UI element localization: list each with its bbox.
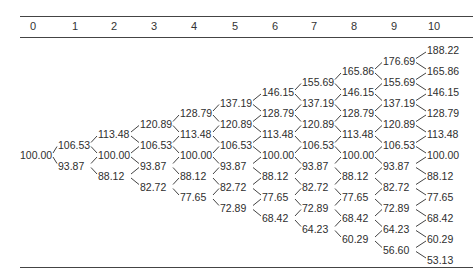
tree-connector [131, 168, 139, 175]
tree-connector [375, 157, 382, 164]
tree-connector [131, 136, 139, 143]
tree-connector [375, 136, 382, 143]
tree-connector [253, 210, 261, 217]
tree-connector [173, 168, 179, 175]
tree-connector [213, 168, 219, 175]
tree-connector [416, 84, 426, 91]
tree-connector [295, 168, 301, 175]
tree-connector [416, 210, 426, 217]
tree-connector [253, 94, 261, 101]
tree-connector [416, 220, 426, 227]
tree-node: 68.42 [427, 212, 453, 224]
tree-node: 64.23 [302, 223, 328, 235]
tree-connector [416, 178, 426, 185]
tree-connector [375, 231, 382, 238]
tree-node: 120.89 [383, 118, 415, 130]
tree-connector [173, 157, 179, 164]
tree-node: 146.15 [262, 86, 294, 98]
tree-connector [375, 126, 382, 133]
tree-connector [335, 105, 341, 112]
tree-node: 146.15 [342, 86, 374, 98]
tree-node: 88.12 [180, 170, 206, 182]
tree-connector [295, 115, 301, 122]
tree-connector [295, 157, 301, 164]
tree-connector [213, 199, 219, 206]
tree-connector [253, 115, 261, 122]
tree-node: 72.89 [302, 202, 328, 214]
tree-node: 137.19 [383, 97, 415, 109]
tree-connector [335, 231, 341, 238]
tree-node: 155.69 [302, 76, 334, 88]
tree-node: 120.89 [220, 118, 252, 130]
tree-connector [295, 126, 301, 133]
tree-node: 128.79 [342, 107, 374, 119]
tree-connector [295, 210, 301, 217]
tree-connector [416, 241, 426, 248]
tree-node: 100.00 [20, 149, 52, 161]
tree-node: 137.19 [220, 97, 252, 109]
tree-connector [416, 94, 426, 101]
tree-connector [91, 168, 97, 175]
tree-node: 77.65 [180, 191, 206, 203]
tree-connector [253, 199, 261, 206]
tree-connector [253, 136, 261, 143]
tree-connector [173, 126, 179, 133]
tree-node: 100.00 [342, 149, 374, 161]
tree-node: 128.79 [262, 107, 294, 119]
tree-connector [173, 189, 179, 196]
tree-connector [335, 220, 341, 227]
tree-connector [416, 168, 426, 175]
tree-connector [91, 136, 97, 143]
tree-node: 100.00 [427, 149, 459, 161]
tree-node: 93.87 [58, 160, 84, 172]
tree-connector [375, 220, 382, 227]
tree-node: 100.00 [180, 149, 212, 161]
tree-node: 155.69 [383, 76, 415, 88]
tree-node: 93.87 [140, 160, 166, 172]
tree-connector [416, 73, 426, 80]
tree-connector [295, 199, 301, 206]
tree-connector [213, 178, 219, 185]
tree-connector [416, 63, 426, 70]
tree-connector [335, 199, 341, 206]
tree-connector [416, 136, 426, 143]
tree-connector [173, 147, 179, 154]
tree-connector [335, 126, 341, 133]
tree-connector [335, 157, 341, 164]
tree-node: 176.69 [383, 55, 415, 67]
tree-connector [335, 84, 341, 91]
tree-node: 120.89 [140, 118, 172, 130]
tree-node: 56.60 [383, 244, 409, 256]
tree-node: 60.29 [427, 233, 453, 245]
tree-node: 113.48 [180, 128, 211, 140]
tree-connector [295, 189, 301, 196]
tree-node: 88.12 [262, 170, 288, 182]
tree-node: 53.13 [427, 254, 453, 266]
tree-node: 113.48 [98, 128, 129, 140]
tree-connector [335, 178, 341, 185]
tree-connector [335, 189, 341, 196]
tree-connector [295, 147, 301, 154]
tree-node: 72.89 [220, 202, 246, 214]
tree-node: 68.42 [342, 212, 368, 224]
tree-node: 88.12 [98, 170, 124, 182]
tree-node: 106.53 [220, 139, 252, 151]
tree-connector [295, 220, 301, 227]
tree-connector [295, 178, 301, 185]
tree-connector [173, 178, 179, 185]
tree-connector [213, 157, 219, 164]
tree-connector [375, 94, 382, 101]
tree-connector [253, 126, 261, 133]
tree-connector [173, 115, 179, 122]
tree-node: 77.65 [262, 191, 288, 203]
tree-node: 77.65 [342, 191, 368, 203]
tree-node: 137.19 [302, 97, 334, 109]
tree-connector [375, 189, 382, 196]
tree-node: 113.48 [262, 128, 293, 140]
tree-connector [295, 136, 301, 143]
tree-node: 82.72 [220, 181, 246, 193]
tree-node: 128.79 [180, 107, 212, 119]
tree-node: 128.79 [427, 107, 459, 119]
tree-connector [375, 210, 382, 217]
tree-node: 106.53 [58, 139, 90, 151]
